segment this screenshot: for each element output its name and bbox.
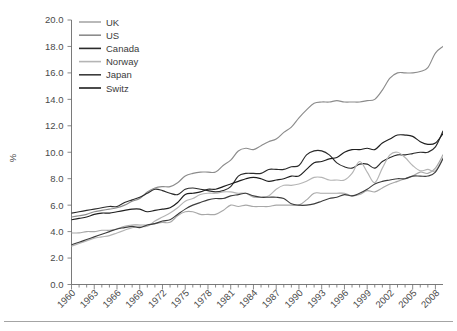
series-line-norway (72, 152, 444, 246)
x-tick-label: 2005 (396, 287, 419, 310)
y-tick-label: 18.0 (45, 41, 64, 52)
x-tick-label: 1990 (282, 287, 305, 310)
y-axis-ticks: 0.02.04.06.08.010.012.014.016.018.020.0 (45, 14, 72, 290)
y-tick-label: 14.0 (45, 94, 64, 105)
y-tick-label: 16.0 (45, 67, 64, 78)
x-tick-label: 1978 (191, 287, 214, 310)
x-tick-label: 1999 (350, 287, 373, 310)
chart-legend: UKUSCanadaNorwayJapanSwitz (79, 17, 140, 94)
y-tick-label: 12.0 (45, 120, 64, 131)
series-line-canada (72, 131, 444, 213)
x-tick-label: 1981 (214, 287, 237, 310)
legend-label-norway: Norway (106, 56, 138, 67)
x-axis-ticks: 1960196319661969197219751978198119841987… (55, 285, 442, 310)
x-tick-label: 2008 (419, 287, 442, 310)
y-tick-label: 2.0 (50, 252, 63, 263)
series-line-uk (72, 155, 444, 233)
x-tick-label: 1966 (100, 287, 123, 310)
x-tick-label: 1972 (146, 287, 169, 310)
y-tick-label: 8.0 (50, 173, 63, 184)
x-tick-label: 2002 (373, 287, 396, 310)
chart-canvas: 0.02.04.06.08.010.012.014.016.018.020.0 … (0, 0, 457, 331)
x-tick-label: 1984 (237, 287, 260, 310)
y-tick-label: 10.0 (45, 147, 64, 158)
x-tick-label: 1993 (305, 287, 328, 310)
x-tick-label: 1963 (77, 287, 100, 310)
line-chart: 0.02.04.06.08.010.012.014.016.018.020.0 … (0, 0, 457, 331)
x-tick-label: 1969 (123, 287, 146, 310)
y-axis-title: % (7, 153, 18, 162)
x-tick-label: 1987 (259, 287, 282, 310)
y-tick-label: 4.0 (50, 226, 63, 237)
y-tick-label: 20.0 (45, 14, 64, 25)
legend-label-us: US (106, 30, 119, 41)
legend-label-uk: UK (106, 17, 120, 28)
x-tick-label: 1975 (168, 287, 191, 310)
legend-label-japan: Japan (106, 69, 132, 80)
y-tick-label: 0.0 (50, 279, 63, 290)
legend-label-canada: Canada (106, 43, 140, 54)
x-tick-label: 1960 (55, 287, 78, 310)
legend-label-switz: Switz (106, 83, 129, 94)
y-tick-label: 6.0 (50, 200, 63, 211)
x-tick-label: 1996 (328, 287, 351, 310)
